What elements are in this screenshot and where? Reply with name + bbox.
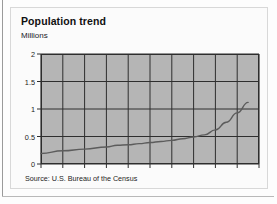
screenshot-root: Population trend Millions 00.511.52 1800…	[0, 0, 277, 204]
y-tick-label-0.5: 0.5	[17, 132, 35, 141]
plot-svg	[41, 54, 259, 164]
source-note: Source: U.S. Bureau of the Census	[25, 174, 137, 183]
plot-wrap: 00.511.52 180018201840186018801900192019…	[41, 54, 259, 164]
y-tick-label-0: 0	[17, 160, 35, 169]
y-tick-label-2: 2	[17, 50, 35, 59]
y-tick-label-1.5: 1.5	[17, 77, 35, 86]
y-tick-label-1: 1	[17, 105, 35, 114]
page-rule-left	[2, 0, 3, 196]
chart-title: Population trend	[21, 15, 106, 27]
page-rule-bottom	[2, 196, 274, 197]
y-axis-unit-label: Millions	[21, 31, 48, 40]
data-line-population	[41, 102, 248, 153]
figure-card: Population trend Millions 00.511.52 1800…	[10, 7, 268, 189]
